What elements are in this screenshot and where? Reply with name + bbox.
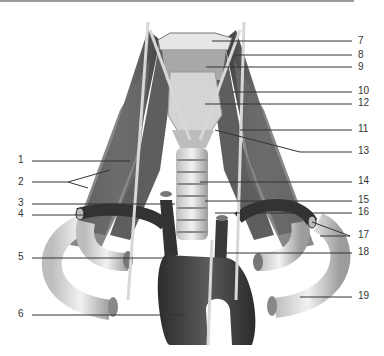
label-10: 10 — [358, 86, 369, 96]
label-3: 3 — [18, 198, 24, 208]
label-14: 14 — [358, 176, 369, 186]
label-2: 2 — [18, 177, 24, 187]
label-18: 18 — [358, 247, 369, 257]
label-1: 1 — [18, 155, 24, 165]
anatomy-illustration — [0, 0, 384, 356]
trachea — [176, 148, 208, 240]
label-7: 7 — [358, 36, 364, 46]
label-13: 13 — [358, 146, 369, 156]
label-16: 16 — [358, 207, 369, 217]
label-6: 6 — [18, 309, 24, 319]
label-4: 4 — [18, 209, 24, 219]
label-15: 15 — [358, 195, 369, 205]
label-11: 11 — [358, 124, 368, 134]
left-vessel-lumen — [76, 208, 84, 220]
label-5: 5 — [18, 252, 24, 262]
label-19: 19 — [358, 291, 369, 301]
label-9: 9 — [358, 62, 364, 72]
label-17: 17 — [358, 230, 369, 240]
label-12: 12 — [358, 98, 369, 108]
label-8: 8 — [358, 50, 364, 60]
